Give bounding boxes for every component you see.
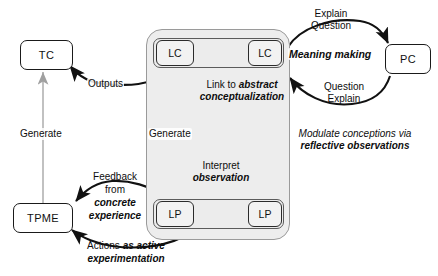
label-modulate-line1: Modulate conceptions via bbox=[299, 128, 412, 139]
label-actions-bold1: as active bbox=[123, 240, 165, 251]
label-modulate-conceptions: Modulate conceptions via reflective obse… bbox=[275, 128, 435, 152]
node-pc-label: PC bbox=[400, 53, 416, 65]
label-actions-plain: Actions bbox=[87, 240, 123, 251]
label-explain-bottom: Explain bbox=[328, 93, 361, 104]
label-question-top: Question bbox=[311, 20, 351, 31]
label-question-explain-bottom: Question Explain bbox=[313, 81, 375, 105]
label-explain-top: Explain bbox=[315, 8, 348, 19]
node-pc[interactable]: PC bbox=[385, 44, 431, 74]
node-lc-left-label: LC bbox=[168, 47, 181, 59]
label-generate-center: Generate bbox=[148, 128, 192, 140]
label-link-line1-plain: Link to bbox=[206, 79, 238, 90]
node-tc[interactable]: TC bbox=[20, 40, 73, 70]
label-interpret-line2: observation bbox=[193, 172, 250, 183]
diagram-canvas: LC LC LP LP TC TPME PC Outputs Generate … bbox=[0, 0, 438, 276]
node-lp-right-label: LP bbox=[259, 208, 272, 220]
label-meaning-making: Meaning making bbox=[288, 48, 372, 60]
label-interpret-line1: Interpret bbox=[202, 160, 239, 171]
label-explain-question-top: Explain Question bbox=[300, 8, 362, 32]
label-interpret-observation: Interpret observation bbox=[186, 160, 256, 184]
label-feedback-concrete-experience: Feedback from concrete experience bbox=[82, 170, 148, 222]
node-tpme[interactable]: TPME bbox=[13, 203, 73, 233]
label-question-bottom: Question bbox=[324, 81, 364, 92]
node-tpme-label: TPME bbox=[27, 212, 59, 224]
label-generate-left: Generate bbox=[19, 128, 63, 140]
node-lc-right-label: LC bbox=[258, 47, 271, 59]
label-modulate-line2: reflective observations bbox=[301, 140, 410, 151]
label-feedback-line1: Feedback bbox=[93, 171, 137, 182]
node-lp-left[interactable]: LP bbox=[156, 201, 194, 227]
node-lc-right[interactable]: LC bbox=[248, 40, 282, 66]
node-tc-label: TC bbox=[39, 49, 54, 61]
node-lp-right[interactable]: LP bbox=[248, 201, 282, 227]
label-actions-bold2: experimentation bbox=[87, 253, 164, 264]
label-actions-active-experimentation: Actions as active experimentation bbox=[63, 239, 189, 265]
label-meaning-making-text: Meaning making bbox=[289, 48, 371, 60]
label-link-line2-bold: conceptualization bbox=[200, 91, 284, 102]
label-feedback-line2: from bbox=[105, 184, 125, 195]
label-feedback-line4: experience bbox=[89, 210, 141, 221]
label-outputs: Outputs bbox=[87, 78, 124, 90]
label-feedback-line3: concrete bbox=[94, 197, 136, 208]
node-lp-left-label: LP bbox=[169, 208, 182, 220]
label-link-line1-bold: abstract bbox=[239, 79, 278, 90]
node-lc-left[interactable]: LC bbox=[156, 40, 194, 66]
label-link-abstract-conceptualization: Link to abstract conceptualization bbox=[183, 79, 301, 103]
